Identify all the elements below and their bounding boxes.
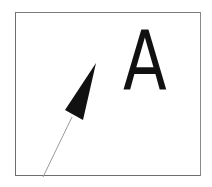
- label-letter: A: [123, 26, 159, 96]
- arrow-tail-line: [43, 117, 72, 177]
- arrow-diagram: [0, 0, 212, 187]
- arrow-head-icon: [65, 63, 96, 120]
